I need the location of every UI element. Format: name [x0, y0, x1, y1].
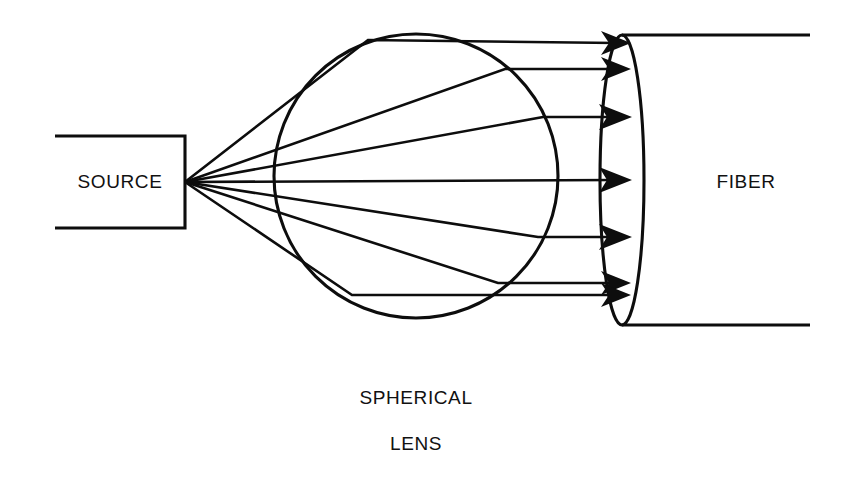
ray-1-path	[185, 40, 616, 182]
ray-7	[185, 182, 631, 307]
ray-4-path	[185, 180, 614, 182]
ray-5	[185, 182, 632, 250]
source-label: SOURCE	[78, 171, 163, 193]
ray-6-path	[185, 182, 616, 283]
spherical-lens	[274, 34, 558, 318]
ray-3	[185, 104, 632, 182]
spherical-lens-circle	[274, 34, 558, 318]
ray-bundle	[185, 31, 632, 307]
ray-7-path	[185, 182, 616, 295]
lens-label-line-2: LENS	[390, 433, 442, 455]
fiber-label: FIBER	[717, 171, 776, 193]
ray-2-path	[185, 69, 616, 182]
ray-6	[185, 182, 631, 295]
lens-label-line-1: SPHERICAL	[359, 387, 472, 409]
ray-2	[185, 57, 631, 182]
diagram-canvas	[0, 0, 850, 494]
ray-5-path	[185, 182, 614, 237]
optics-diagram: SOURCE FIBER SPHERICAL LENS	[0, 0, 850, 494]
